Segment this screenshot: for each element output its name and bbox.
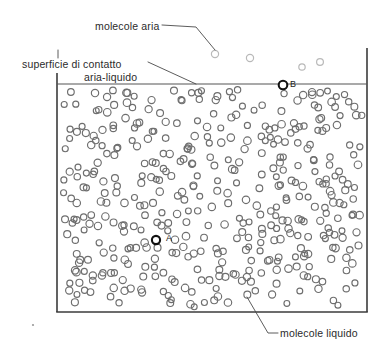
liquid-molecule bbox=[160, 269, 167, 276]
liquid-molecule bbox=[99, 126, 106, 133]
liquid-molecule bbox=[239, 103, 245, 109]
liquid-molecule bbox=[215, 178, 221, 184]
liquid-molecule bbox=[344, 181, 351, 188]
liquid-molecule bbox=[81, 287, 87, 293]
liquid-molecule bbox=[183, 219, 190, 226]
label-point-b: B bbox=[290, 79, 296, 89]
liquid-molecule bbox=[116, 300, 122, 306]
liquid-molecule bbox=[168, 173, 175, 180]
highlighted-molecules-group bbox=[152, 81, 287, 244]
liquid-molecule bbox=[206, 140, 212, 146]
liquid-molecule bbox=[102, 213, 109, 220]
liquid-molecule bbox=[201, 234, 208, 241]
liquid-molecule bbox=[67, 280, 73, 286]
liquid-molecule bbox=[89, 272, 96, 279]
liquid-molecule bbox=[144, 135, 151, 142]
liquid-molecule bbox=[251, 107, 257, 113]
liquid-molecule bbox=[246, 219, 252, 225]
liquid-molecule bbox=[152, 273, 159, 280]
liquid-molecule bbox=[133, 143, 140, 150]
liquid-molecule bbox=[88, 212, 95, 219]
liquid-molecule bbox=[103, 109, 111, 117]
liquid-molecule bbox=[240, 220, 246, 226]
liquid-molecule bbox=[83, 170, 89, 176]
liquid-molecule bbox=[100, 249, 107, 256]
liquid-molecule bbox=[145, 106, 152, 113]
liquid-molecule bbox=[61, 190, 67, 196]
liquid-molecule bbox=[351, 184, 357, 190]
liquid-molecule bbox=[234, 87, 240, 93]
liquid-molecule bbox=[213, 285, 219, 291]
liquid-molecule bbox=[333, 94, 339, 100]
liquid-molecule bbox=[244, 137, 252, 145]
liquid-molecule bbox=[129, 138, 135, 144]
liquid-molecule bbox=[268, 208, 274, 214]
liquid-molecule bbox=[103, 93, 110, 100]
air-molecule bbox=[246, 54, 253, 61]
liquid-molecule bbox=[241, 145, 248, 152]
liquid-molecule bbox=[253, 202, 260, 209]
liquid-molecule bbox=[110, 87, 117, 94]
liquid-molecule bbox=[171, 87, 178, 94]
liquid-molecule bbox=[243, 273, 250, 280]
liquid-molecule bbox=[281, 91, 287, 97]
liquid-molecule bbox=[182, 232, 190, 240]
liquid-molecule bbox=[210, 111, 216, 117]
liquid-molecule bbox=[252, 288, 258, 294]
label-molecole-aria: molecole aria bbox=[95, 20, 159, 33]
liquid-molecule bbox=[189, 289, 196, 296]
liquid-molecule bbox=[207, 154, 213, 160]
liquid-molecule bbox=[259, 102, 265, 108]
liquid-molecule bbox=[353, 229, 360, 236]
liquid-molecule bbox=[114, 183, 120, 189]
liquid-molecule bbox=[205, 222, 211, 228]
liquid-molecule bbox=[258, 270, 264, 276]
liquid-molecule bbox=[162, 135, 169, 142]
liquid-molecule bbox=[285, 265, 293, 273]
liquid-molecule bbox=[111, 152, 118, 159]
liquid-molecule bbox=[214, 187, 221, 194]
liquid-molecule bbox=[315, 285, 322, 292]
liquid-molecule bbox=[258, 150, 265, 157]
liquid-molecule bbox=[188, 90, 194, 96]
liquid-molecule bbox=[71, 216, 77, 222]
liquid-molecule bbox=[296, 193, 302, 199]
liquid-molecule bbox=[113, 189, 120, 196]
liquid-molecule bbox=[332, 173, 338, 179]
label-molecole-liquido: molecole liquido bbox=[280, 327, 358, 340]
liquid-molecule bbox=[82, 130, 89, 137]
liquid-molecule bbox=[104, 150, 110, 156]
liquid-molecule bbox=[212, 96, 219, 103]
liquid-molecule bbox=[239, 229, 246, 236]
liquid-molecule bbox=[130, 223, 137, 230]
liquid-molecule bbox=[293, 263, 300, 270]
liquid-molecule bbox=[61, 101, 67, 107]
liquid-molecule bbox=[122, 114, 129, 121]
liquid-molecule bbox=[280, 167, 286, 173]
liquid-molecule bbox=[194, 173, 200, 179]
liquid-molecule bbox=[196, 96, 202, 102]
liquid-molecule bbox=[143, 244, 150, 251]
liquid-molecule bbox=[110, 284, 117, 291]
liquid-molecule bbox=[195, 208, 201, 214]
liquid-molecule bbox=[141, 239, 149, 247]
liquid-molecule bbox=[258, 225, 265, 232]
liquid-molecule bbox=[347, 142, 353, 148]
liquid-molecule bbox=[262, 123, 268, 129]
liquid-molecule bbox=[325, 88, 331, 94]
liquid-molecule bbox=[181, 284, 188, 291]
liquid-molecule bbox=[351, 103, 358, 110]
liquid-molecule bbox=[294, 97, 301, 104]
liquid-molecule bbox=[171, 236, 178, 243]
liquid-molecule bbox=[96, 240, 102, 246]
liquid-molecule bbox=[275, 182, 282, 189]
liquid-molecule bbox=[178, 188, 185, 195]
liquid-molecule bbox=[111, 255, 117, 261]
liquid-molecule bbox=[111, 175, 118, 182]
liquid-molecule bbox=[141, 202, 148, 209]
liquid-molecule bbox=[295, 140, 302, 147]
liquid-molecule bbox=[351, 152, 357, 158]
liquid-molecule bbox=[68, 195, 75, 202]
liquid-molecule bbox=[75, 164, 81, 170]
liquid-molecule bbox=[131, 93, 137, 99]
